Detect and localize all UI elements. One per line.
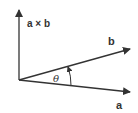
cross-product-diagram: a × b b a θ bbox=[0, 0, 138, 113]
label-a-cross-b: a × b bbox=[27, 18, 50, 29]
label-theta: θ bbox=[53, 73, 59, 84]
vector-b bbox=[19, 49, 130, 80]
label-b: b bbox=[108, 35, 115, 47]
angle-arc bbox=[68, 67, 71, 86]
label-a: a bbox=[116, 99, 123, 111]
vector-a bbox=[19, 80, 130, 92]
